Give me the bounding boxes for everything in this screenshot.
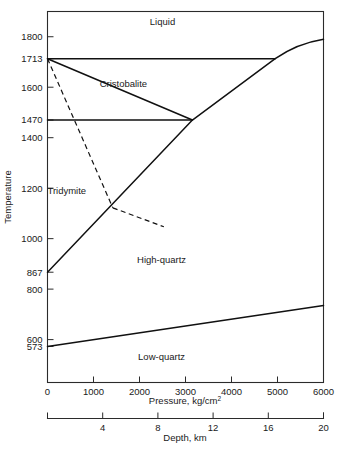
region-label-high-quartz: High-quartz	[137, 254, 186, 265]
depth-tick-label: 20	[318, 422, 329, 433]
depth-axis-ticks	[103, 413, 324, 419]
phase-diagram-figure: 5736008008671000120014001470160017131800…	[0, 0, 344, 455]
x-axis-title: Pressure, kg/cm2	[149, 395, 222, 407]
depth-tick-label: 12	[208, 422, 219, 433]
region-label-liquid: Liquid	[150, 16, 175, 27]
depth-axis-title: Depth, km	[163, 432, 206, 443]
y-tick-label: 800	[27, 284, 43, 295]
x-tick-label: 6000	[313, 386, 334, 397]
depth-tick-label: 8	[155, 422, 160, 433]
x-tick-label: 1000	[83, 386, 104, 397]
depth-axis: 48121620	[48, 413, 329, 434]
x-tick-label: 0	[45, 386, 50, 397]
liquidus-melting-curve	[48, 39, 324, 120]
y-tick-label: 867	[27, 267, 43, 278]
y-axis-title: Temperature	[2, 170, 13, 223]
region-label-low-quartz: Low-quartz	[138, 351, 185, 362]
x-tick-label: 2000	[129, 386, 150, 397]
high-low-quartz-inversion	[48, 306, 324, 347]
plot-frame	[48, 12, 324, 383]
depth-tick-label: 4	[100, 422, 105, 433]
y-tick-label: 1800	[21, 31, 42, 42]
y-tick-label: 1200	[21, 183, 42, 194]
y-tick-label: 1713	[21, 53, 42, 64]
y-tick-label: 600	[27, 334, 43, 345]
x-tick-label: 4000	[221, 386, 242, 397]
depth-axis-tick-labels: 48121620	[100, 422, 329, 433]
x-tick-label: 5000	[267, 386, 288, 397]
y-tick-label: 1600	[21, 82, 42, 93]
silica-phase-diagram: 5736008008671000120014001470160017131800…	[0, 0, 344, 455]
y-tick-label: 1470	[21, 114, 42, 125]
phase-boundary-curves	[48, 39, 324, 346]
y-axis-tick-labels: 5736008008671000120014001470160017131800	[21, 31, 42, 352]
tridymite-quartz-metastable	[113, 208, 164, 227]
region-label-cristobalite: Cristobalite	[100, 78, 148, 89]
region-label-tridymite: Tridymite	[47, 185, 86, 196]
y-tick-label: 1000	[21, 233, 42, 244]
y-tick-label: 1400	[21, 132, 42, 143]
depth-tick-label: 16	[263, 422, 274, 433]
x-axis-ticks	[94, 377, 278, 383]
